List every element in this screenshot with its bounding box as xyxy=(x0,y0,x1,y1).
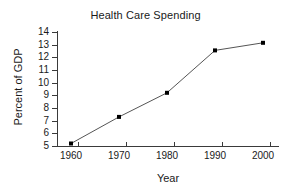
y-tick-label: 9 xyxy=(25,90,49,100)
y-axis-title: Percent of GDP xyxy=(12,22,24,152)
y-tick-label: 6 xyxy=(25,128,49,138)
data-point-marker xyxy=(261,41,265,45)
y-tick-label: 7 xyxy=(25,116,49,126)
x-axis-line xyxy=(57,146,279,147)
x-tick-label: 2000 xyxy=(243,150,283,161)
x-axis-title: Year xyxy=(57,172,279,184)
chart-screenshot: Health Care Spending Percent of GDP 1413… xyxy=(0,0,291,194)
series-markers xyxy=(69,41,265,146)
plot-area xyxy=(57,32,278,146)
y-tick-label: 12 xyxy=(25,52,49,62)
y-tick-label: 13 xyxy=(25,40,49,50)
y-tick-label: 10 xyxy=(25,78,49,88)
x-tick-label: 1980 xyxy=(147,150,187,161)
data-series-line xyxy=(57,32,278,146)
data-point-marker xyxy=(165,91,169,95)
x-tick-label: 1970 xyxy=(99,150,139,161)
y-tick-label: 8 xyxy=(25,103,49,113)
y-tick-label: 11 xyxy=(25,65,49,75)
y-tick-label: 14 xyxy=(25,27,49,37)
x-tick-label: 1990 xyxy=(195,150,235,161)
y-tick-label: 5 xyxy=(25,141,49,151)
chart-title: Health Care Spending xyxy=(0,9,291,21)
data-point-marker xyxy=(117,115,121,119)
data-point-marker xyxy=(213,48,217,52)
x-tick-label: 1960 xyxy=(51,150,91,161)
data-point-marker xyxy=(69,142,73,146)
y-tick-mark xyxy=(52,146,57,147)
